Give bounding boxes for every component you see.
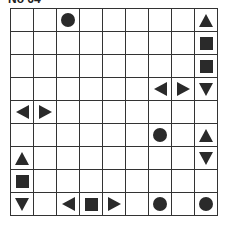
triangle-left-icon [62,197,75,211]
grid-cell-r6-c3[interactable] [80,147,103,170]
grid-cell-r8-c1[interactable] [34,193,57,216]
grid-cell-r4-c5[interactable] [126,101,149,124]
grid-cell-r1-c6[interactable] [149,32,172,55]
grid-cell-r3-c8[interactable] [195,78,218,101]
grid-cell-r3-c5[interactable] [126,78,149,101]
circle-icon [199,197,213,211]
grid-cell-r6-c5[interactable] [126,147,149,170]
triangle-left-icon [154,82,167,96]
grid-cell-r5-c6[interactable] [149,124,172,147]
grid-cell-r2-c7[interactable] [172,55,195,78]
circle-icon [153,128,167,142]
grid-cell-r0-c5[interactable] [126,9,149,32]
triangle-right-icon [177,82,190,96]
grid-cell-r1-c8[interactable] [195,32,218,55]
grid-cell-r0-c1[interactable] [34,9,57,32]
grid-cell-r6-c6[interactable] [149,147,172,170]
grid-cell-r3-c4[interactable] [103,78,126,101]
square-icon [16,175,29,188]
grid-cell-r0-c6[interactable] [149,9,172,32]
grid-cell-r5-c3[interactable] [80,124,103,147]
grid-cell-r3-c1[interactable] [34,78,57,101]
grid-cell-r8-c2[interactable] [57,193,80,216]
grid-cell-r3-c2[interactable] [57,78,80,101]
triangle-up-icon [15,152,29,165]
grid-cell-r5-c2[interactable] [57,124,80,147]
grid-cell-r1-c0[interactable] [11,32,34,55]
square-icon [85,198,98,211]
grid-cell-r6-c0[interactable] [11,147,34,170]
grid-cell-r8-c4[interactable] [103,193,126,216]
grid-cell-r8-c7[interactable] [172,193,195,216]
grid-cell-r5-c8[interactable] [195,124,218,147]
triangle-up-icon [199,14,213,27]
grid-cell-r0-c2[interactable] [57,9,80,32]
grid-cell-r7-c0[interactable] [11,170,34,193]
grid-cell-r6-c7[interactable] [172,147,195,170]
triangle-left-icon [16,105,29,119]
grid-cell-r4-c3[interactable] [80,101,103,124]
triangle-down-icon [15,198,29,211]
grid-cell-r8-c8[interactable] [195,193,218,216]
triangle-right-icon [108,197,121,211]
grid-cell-r5-c4[interactable] [103,124,126,147]
grid-cell-r0-c8[interactable] [195,9,218,32]
grid-cell-r0-c4[interactable] [103,9,126,32]
grid-cell-r4-c7[interactable] [172,101,195,124]
grid-cell-r8-c0[interactable] [11,193,34,216]
triangle-down-icon [199,83,213,96]
grid-cell-r8-c5[interactable] [126,193,149,216]
grid-cell-r4-c1[interactable] [34,101,57,124]
grid-cell-r4-c8[interactable] [195,101,218,124]
square-icon [200,37,213,50]
grid-cell-r8-c3[interactable] [80,193,103,216]
grid-cell-r0-c7[interactable] [172,9,195,32]
grid-cell-r6-c8[interactable] [195,147,218,170]
grid-cell-r1-c3[interactable] [80,32,103,55]
grid-cell-r3-c3[interactable] [80,78,103,101]
grid-cell-r3-c0[interactable] [11,78,34,101]
grid-cell-r7-c6[interactable] [149,170,172,193]
grid-cell-r4-c0[interactable] [11,101,34,124]
grid-cell-r5-c1[interactable] [34,124,57,147]
grid-cell-r0-c3[interactable] [80,9,103,32]
circle-icon [153,197,167,211]
grid-cell-r6-c1[interactable] [34,147,57,170]
grid-cell-r6-c4[interactable] [103,147,126,170]
grid-cell-r5-c5[interactable] [126,124,149,147]
grid-cell-r4-c2[interactable] [57,101,80,124]
grid-cell-r2-c6[interactable] [149,55,172,78]
grid-cell-r1-c5[interactable] [126,32,149,55]
grid-cell-r8-c6[interactable] [149,193,172,216]
grid-cell-r7-c5[interactable] [126,170,149,193]
grid-cell-r3-c6[interactable] [149,78,172,101]
grid-cell-r7-c2[interactable] [57,170,80,193]
grid-cell-r2-c5[interactable] [126,55,149,78]
grid-cell-r7-c1[interactable] [34,170,57,193]
puzzle-grid [10,8,218,216]
triangle-right-icon [39,105,52,119]
grid-cell-r2-c3[interactable] [80,55,103,78]
grid-cell-r2-c0[interactable] [11,55,34,78]
grid-cell-r2-c8[interactable] [195,55,218,78]
grid-cell-r7-c4[interactable] [103,170,126,193]
grid-cell-r2-c4[interactable] [103,55,126,78]
grid-cell-r5-c7[interactable] [172,124,195,147]
grid-cell-r6-c2[interactable] [57,147,80,170]
grid-cell-r4-c6[interactable] [149,101,172,124]
triangle-up-icon [199,129,213,142]
grid-cell-r1-c2[interactable] [57,32,80,55]
grid-cell-r1-c7[interactable] [172,32,195,55]
grid-cell-r1-c1[interactable] [34,32,57,55]
grid-cell-r7-c8[interactable] [195,170,218,193]
grid-cell-r7-c7[interactable] [172,170,195,193]
grid-cell-r4-c4[interactable] [103,101,126,124]
grid-cell-r0-c0[interactable] [11,9,34,32]
grid-cell-r5-c0[interactable] [11,124,34,147]
grid-cell-r7-c3[interactable] [80,170,103,193]
triangle-down-icon [199,152,213,165]
grid-cell-r2-c2[interactable] [57,55,80,78]
grid-cell-r3-c7[interactable] [172,78,195,101]
grid-cell-r1-c4[interactable] [103,32,126,55]
grid-cell-r2-c1[interactable] [34,55,57,78]
